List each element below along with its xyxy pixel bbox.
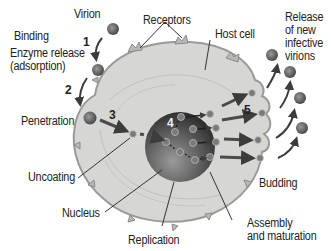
label-binding: Binding [14, 30, 49, 43]
label-penetration: Penetration [21, 115, 74, 128]
label-replication: Replication [128, 234, 179, 247]
step-3: 3 [109, 109, 116, 121]
label-host-cell: Host cell [215, 28, 255, 41]
nucleus [145, 112, 215, 182]
step-2: 2 [65, 84, 72, 96]
step-4: 4 [167, 117, 174, 129]
step-1: 1 [83, 36, 90, 48]
step-5: 5 [244, 104, 251, 116]
label-adsorption: (adsorption) [10, 60, 65, 73]
label-nucleus: Nucleus [62, 207, 100, 220]
viral-replication-diagram: Virion Receptors Host cell Release of ne… [0, 0, 331, 251]
label-budding: Budding [259, 177, 297, 190]
label-virion: Virion [74, 8, 100, 21]
label-uncoating: Uncoating [28, 171, 75, 184]
label-receptors: Receptors [143, 14, 191, 27]
